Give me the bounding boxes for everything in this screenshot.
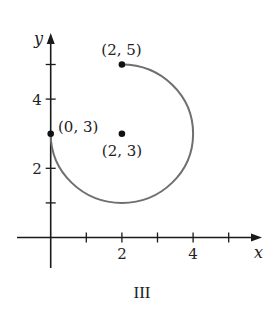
y-axis-arrow-icon (47, 33, 55, 44)
y-tick-label-4: 4 (32, 91, 42, 109)
figure-caption: III (134, 283, 151, 302)
graph: 2 4 2 4 x y (2, 5) (0, 3) (2, 3) III (0, 0, 277, 313)
point-label-0-3: (0, 3) (58, 118, 98, 136)
point-2-3 (119, 130, 126, 137)
point-label-2-5: (2, 5) (101, 41, 141, 59)
y-tick-label-2: 2 (32, 160, 42, 178)
y-axis-label: y (33, 29, 44, 48)
x-tick-label-2: 2 (117, 245, 127, 263)
point-label-2-3: (2, 3) (102, 142, 142, 160)
x-axis-label: x (254, 243, 263, 262)
x-tick-label-4: 4 (188, 245, 198, 263)
point-0-3 (47, 130, 54, 137)
point-2-5 (119, 61, 126, 68)
x-axis-arrow-icon (251, 234, 262, 242)
